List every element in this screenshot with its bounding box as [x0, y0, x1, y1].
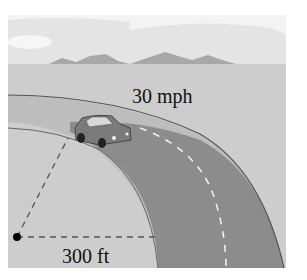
speed-label: 30 mph: [132, 86, 193, 106]
curved-road-illustration: [0, 0, 307, 280]
cloud-puff: [8, 35, 52, 49]
center-point: [13, 233, 21, 241]
radius-label: 300 ft: [62, 246, 109, 266]
